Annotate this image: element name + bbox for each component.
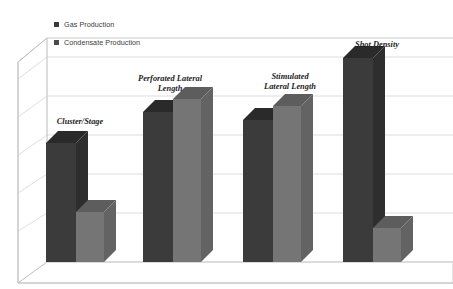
legend-label-gas-production: Gas Production [64, 20, 114, 29]
legend-item-gas-production: Gas Production [54, 18, 140, 31]
bar-front-face [273, 106, 301, 262]
bar-gas-cluster-stage [46, 143, 76, 262]
gas-swatch-icon [54, 22, 59, 27]
legend-item-condensate-production: Condensate Production [54, 36, 140, 49]
bar-condensate-stimulated-lateral-length [273, 106, 301, 262]
bar-gas-shot-density [343, 58, 373, 262]
bar-side-face [201, 87, 213, 262]
left-wall [18, 38, 47, 283]
bar-front-face [343, 58, 373, 262]
bar-side-face [301, 94, 313, 262]
bar-gas-perforated-lateral-length [143, 112, 173, 262]
bar-front-face [46, 143, 76, 262]
category-label-perforated-lateral-length: Perforated Lateral Length [118, 74, 222, 93]
category-label-shot-density: Shot Density [330, 40, 424, 50]
bar-front-face [143, 112, 173, 262]
bar-gas-stimulated-lateral-length [243, 120, 273, 262]
bar-condensate-cluster-stage [76, 212, 104, 262]
chart-3d-column: Cluster/Stage Perforated Lateral Length … [0, 0, 453, 289]
chart-legend: Gas Production Condensate Production [54, 18, 140, 54]
bar-front-face [76, 212, 104, 262]
bar-condensate-perforated-lateral-length [173, 99, 201, 262]
legend-label-condensate-production: Condensate Production [64, 38, 140, 47]
bar-front-face [373, 228, 401, 262]
condensate-swatch-icon [54, 40, 59, 45]
bar-front-face [173, 99, 201, 262]
category-label-stimulated-lateral-length: Stimulated Lateral Length [238, 72, 342, 91]
category-label-cluster-stage: Cluster/Stage [38, 117, 122, 127]
bar-front-face [243, 120, 273, 262]
floor-plane [18, 262, 453, 283]
bar-condensate-shot-density [373, 228, 401, 262]
